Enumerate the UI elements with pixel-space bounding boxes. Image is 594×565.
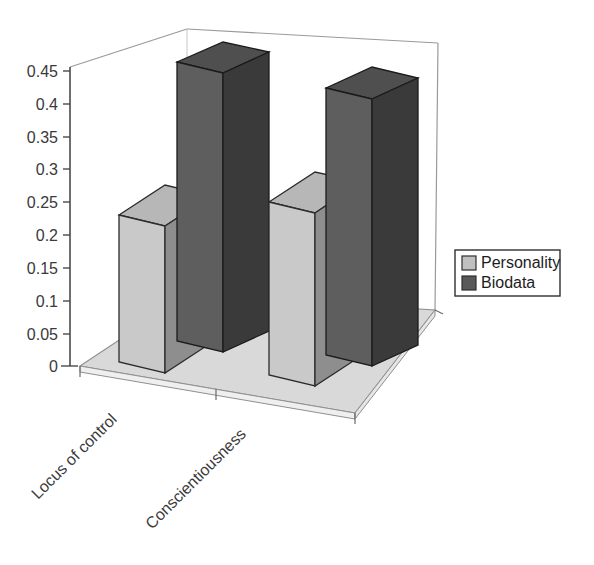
y-tick-label-03: 0.3	[36, 161, 58, 178]
y-tick-label-025: 0.25	[27, 194, 58, 211]
legend-label-personality: Personality	[481, 254, 560, 271]
legend-label-biodata: Biodata	[481, 274, 535, 291]
y-axis: 0.45 0.4 0.35 0.3 0.25 0.2 0.15 0.1 0.05…	[27, 63, 78, 375]
legend-swatch-biodata	[462, 276, 476, 290]
y-tick-label-005: 0.05	[27, 326, 58, 343]
y-tick-label-02: 0.2	[36, 227, 58, 244]
y-tick-label-015: 0.15	[27, 260, 58, 277]
legend-item-biodata[interactable]: Biodata	[462, 274, 535, 291]
y-tick-label-01: 0.1	[36, 293, 58, 310]
chart-canvas: 0.45 0.4 0.35 0.3 0.25 0.2 0.15 0.1 0.05…	[0, 0, 594, 565]
bar-biodata-locus-of-control[interactable]	[177, 42, 269, 352]
bar-chart-3d: 0.45 0.4 0.35 0.3 0.25 0.2 0.15 0.1 0.05…	[0, 0, 594, 565]
x-axis-label-conscientiousness: Conscientiousness	[142, 425, 249, 532]
y-tick-label-045: 0.45	[27, 63, 58, 80]
y-tick-label-0: 0	[49, 358, 58, 375]
bar-biodata-conscientiousness[interactable]	[326, 67, 418, 366]
x-axis-labels: Locus of control Conscientiousness	[28, 410, 249, 532]
y-tick-label-035: 0.35	[27, 129, 58, 146]
legend[interactable]: Personality Biodata	[455, 250, 560, 296]
x-axis-label-locus-of-control: Locus of control	[28, 410, 120, 502]
y-tick-label-04: 0.4	[36, 96, 58, 113]
legend-swatch-personality	[462, 256, 476, 270]
